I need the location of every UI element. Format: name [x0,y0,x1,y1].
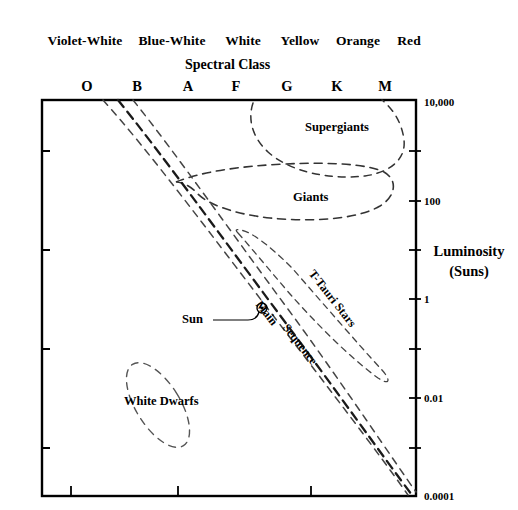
region-label-white-dwarfs: White Dwarfs [124,394,199,409]
main-sequence-upper-edge [103,100,408,495]
region-label-giants: Giants [293,190,328,205]
hr-diagram-figure: Violet-White Blue-White White Yellow Ora… [0,0,518,510]
y-tick-label-1: 1 [424,293,430,305]
bottom-axis-ticks [71,486,311,496]
giants-region-outline [176,163,393,220]
plot-frame [42,100,416,496]
main-sequence-center-line [118,100,412,495]
region-label-supergiants: Supergiants [305,120,369,135]
y-tick-label-0.01: 0.01 [424,392,443,404]
sun-label: Sun [182,312,203,327]
supergiants-region-outline [251,100,404,177]
luminosity-axis-title-line1: Luminosity [422,243,516,260]
y-tick-label-0.0001: 0.0001 [424,490,454,502]
y-tick-label-100: 100 [424,195,441,207]
sun-leader-line [213,312,259,320]
luminosity-axis-title-line2: (Suns) [422,263,516,280]
y-tick-label-10000: 10,000 [424,96,454,108]
main-sequence-lower-edge [133,100,416,492]
